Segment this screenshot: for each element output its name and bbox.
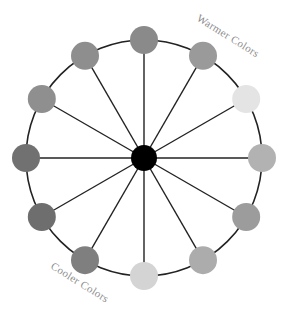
color-node-150	[189, 246, 217, 274]
color-node-60	[232, 85, 260, 113]
color-node-270	[12, 144, 40, 172]
spoke-line	[42, 158, 144, 217]
spoke-line	[144, 99, 246, 158]
color-node-120	[232, 203, 260, 231]
color-node-300	[28, 85, 56, 113]
spoke-line	[42, 99, 144, 158]
color-node-210	[71, 246, 99, 274]
color-node-330	[71, 42, 99, 70]
spoke-line	[144, 56, 203, 158]
color-node-90	[248, 144, 276, 172]
color-node-240	[28, 203, 56, 231]
spoke-line	[85, 56, 144, 158]
color-wheel-diagram: Warmer Colors Cooler Colors	[0, 0, 286, 311]
spoke-line	[144, 158, 246, 217]
spoke-line	[85, 158, 144, 260]
center-hub	[131, 145, 157, 171]
spoke-line	[144, 158, 203, 260]
color-node-180	[130, 262, 158, 290]
color-node-0	[130, 26, 158, 54]
color-node-30	[189, 42, 217, 70]
